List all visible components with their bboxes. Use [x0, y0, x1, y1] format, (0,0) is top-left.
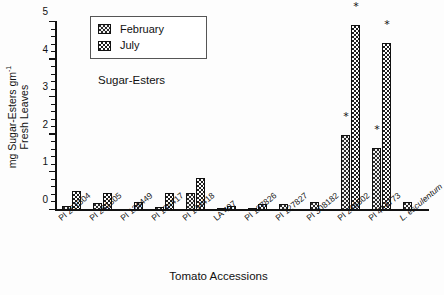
y-axis-major-tick: [49, 171, 56, 173]
plot-annotation: Sugar-Esters: [98, 74, 165, 86]
y-axis-tick-label: 1: [42, 157, 48, 167]
bar-february: [372, 148, 381, 210]
legend-label-february: February: [120, 24, 164, 35]
bar-group: [246, 22, 277, 210]
y-axis-tick-label: 5: [42, 7, 48, 17]
bar-group: [308, 22, 339, 210]
significance-marker: *: [353, 1, 359, 12]
legend-swatch-july: [98, 41, 111, 51]
y-axis-title-line2: Fresh Leaves: [18, 85, 31, 150]
y-axis-title-line1: mg Sugar-Esters gm: [5, 72, 17, 168]
legend-label-july: July: [120, 40, 140, 51]
bar-group: **: [370, 22, 401, 210]
x-axis-tick-labels: PI 251304PI 251305PI 126449PI 134417PI 1…: [56, 212, 428, 274]
x-axis-title: Tomato Accessions: [0, 270, 437, 282]
bar-july: [382, 43, 391, 210]
legend-item-february: February: [98, 24, 199, 35]
bar-group: [277, 22, 308, 210]
y-axis-major-tick: [49, 21, 56, 23]
bar-group: [215, 22, 246, 210]
significance-marker: *: [374, 124, 380, 135]
significance-marker: *: [343, 111, 349, 122]
y-axis-tick-label: 4: [42, 45, 48, 55]
y-axis-major-tick: [49, 209, 56, 211]
y-axis-major-tick: [49, 96, 56, 98]
bar-february: [341, 135, 350, 210]
y-axis-major-tick: [49, 133, 56, 135]
y-axis-title-superscript: -1: [5, 66, 12, 72]
bar-group: [60, 22, 91, 210]
legend-item-july: July: [98, 40, 199, 51]
significance-marker: *: [384, 19, 390, 30]
y-axis-title: mg Sugar-Esters gm-1 Fresh Leaves: [0, 22, 38, 212]
y-axis-tick-label: 3: [42, 82, 48, 92]
bar-group: **: [339, 22, 370, 210]
y-axis-tick-label: 2: [42, 120, 48, 130]
legend-swatch-february: [98, 24, 111, 34]
y-axis-major-tick: [49, 58, 56, 60]
bar-group: [401, 22, 432, 210]
y-axis-tick-label: 0: [42, 195, 48, 205]
legend: February July: [90, 16, 207, 59]
bar-july: [351, 25, 360, 210]
